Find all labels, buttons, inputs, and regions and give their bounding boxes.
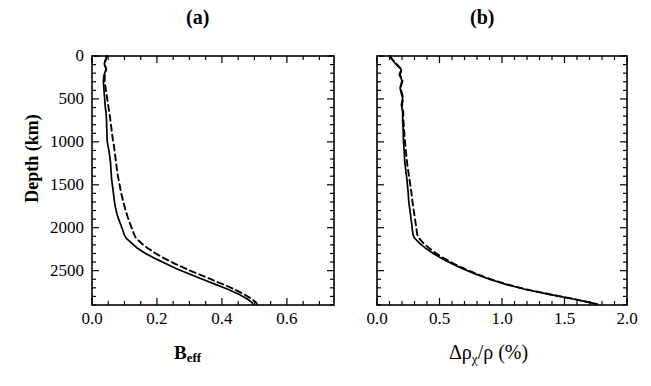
panel-b-frame <box>377 56 627 305</box>
y-tick-label: 1000 <box>22 132 84 152</box>
x-tick-label-panel-a: 0.6 <box>265 309 309 329</box>
y-tick-label: 2500 <box>22 261 84 281</box>
panel-a-label: (a) <box>186 6 209 29</box>
series-a-dashed <box>105 56 257 304</box>
y-tick-label: 1500 <box>22 175 84 195</box>
x-tick-label-panel-b: 0.0 <box>355 309 399 329</box>
x-tick-label-panel-b: 1.5 <box>543 309 587 329</box>
panel-a-group <box>92 56 334 305</box>
x-axis-title-b-tail: /ρ (%) <box>478 341 529 363</box>
figure-container: (a) (b) Depth (km) Beff Δρχ/ρ (%) 0.00.2… <box>0 0 651 386</box>
y-tick-label: 500 <box>22 89 84 109</box>
y-axis-title: Depth (km) <box>22 103 43 215</box>
x-axis-title-panel-b: Δρχ/ρ (%) <box>449 341 528 367</box>
x-tick-label-panel-a: 0.2 <box>135 309 179 329</box>
panel-b-label: (b) <box>470 6 494 29</box>
x-axis-title-a-main: B <box>174 342 187 363</box>
y-tick-label: 0 <box>22 46 84 66</box>
x-tick-label-panel-a: 0.4 <box>200 309 244 329</box>
series-b-solid <box>390 56 598 304</box>
series-a-solid <box>103 56 252 304</box>
x-tick-label-panel-b: 1.0 <box>480 309 524 329</box>
panel-a-frame <box>92 56 334 305</box>
series-b-dashed <box>390 56 597 304</box>
panel-b-group <box>377 56 627 305</box>
x-tick-label-panel-a: 0.0 <box>70 309 114 329</box>
x-axis-title-panel-a: Beff <box>174 342 201 366</box>
x-tick-label-panel-b: 2.0 <box>605 309 649 329</box>
x-axis-title-a-subscript: eff <box>187 350 201 365</box>
y-tick-label: 2000 <box>22 218 84 238</box>
x-tick-label-panel-b: 0.5 <box>418 309 462 329</box>
x-axis-title-b-main: Δρ <box>449 341 472 363</box>
